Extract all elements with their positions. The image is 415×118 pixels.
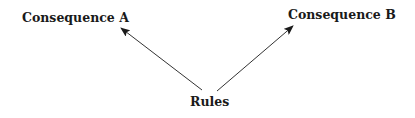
arrow-rules-to-consequence-b [217,26,293,91]
arrows-layer [0,0,415,118]
arrow-rules-to-consequence-a [121,28,202,90]
